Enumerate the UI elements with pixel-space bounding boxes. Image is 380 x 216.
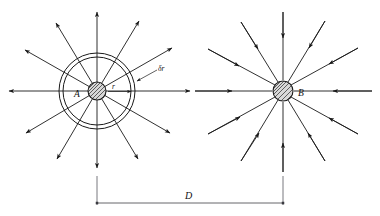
sphere-b [270,78,297,110]
radius-dimension: r [108,82,131,92]
shell-thickness-label: δr [158,64,164,73]
field-line-b-120-arrow [241,22,258,49]
field-line-diagram: A r δr [0,0,380,216]
field-line-b-60-arrow [309,21,325,48]
field-line-a-150 [25,50,97,91]
field-line-b-240-arrow [241,133,259,161]
field-line-b-300-arrow [308,133,325,161]
figure-canvas: A r δr [0,0,380,216]
shell-thickness-dimension: δr [137,64,164,81]
shell-thickness-leader [137,70,157,81]
field-line-a-240 [57,91,97,159]
field-line-b-210-arrow [208,117,240,134]
field-line-a-60 [97,21,139,91]
sphere-a-label: A [73,89,80,99]
separation-label: D [184,190,193,201]
sphere-b-label: B [298,88,304,98]
separation-dimension: D [97,176,283,205]
field-line-b-30-arrow [329,48,358,64]
sphere-a-body [88,82,106,100]
field-line-a-330 [97,91,170,133]
sphere-b-body [273,81,293,101]
field-line-a-210 [26,91,97,133]
field-line-a-120 [56,23,97,91]
field-line-a-300 [97,91,138,159]
radius-label: r [112,82,115,91]
field-line-b-330-arrow [329,118,358,134]
field-line-b-150-arrow [208,49,239,66]
